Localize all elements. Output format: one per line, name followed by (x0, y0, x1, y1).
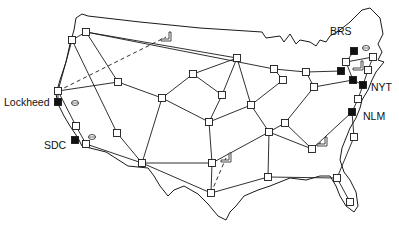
switch-node-denver (159, 95, 166, 102)
disk-icon (89, 135, 96, 140)
switch-node-miami (347, 199, 354, 206)
switch-node-philly (355, 96, 362, 103)
host-node-brs_host (351, 48, 358, 55)
network-link (209, 105, 251, 122)
switch-node-lasvegas (114, 130, 121, 137)
network-link (58, 40, 72, 91)
switch-node-memphis (266, 129, 273, 136)
network-link (72, 40, 117, 133)
host-node-nyt_host (360, 82, 367, 89)
switch-node-kc (206, 119, 213, 126)
host-node-ny_host (350, 77, 357, 84)
label-brs: BRS (330, 26, 352, 37)
network-link (209, 122, 212, 163)
switch-node-dallas (209, 160, 216, 167)
terminal-icon (317, 137, 327, 146)
host-node-sdc (72, 137, 79, 144)
network-diagram: BRSNYTNLMLockheedSDC (0, 0, 399, 230)
network-link (346, 57, 373, 62)
switch-node-nplatte (190, 71, 197, 78)
network-link (274, 69, 306, 72)
network-link (118, 82, 162, 98)
switch-node-dc (351, 134, 358, 141)
switch-node-pittsburgh (311, 84, 318, 91)
label-lockheed: Lockheed (4, 97, 50, 108)
network-link (268, 177, 337, 178)
network-link (86, 32, 237, 58)
switch-node-sf (55, 88, 62, 95)
switch-node-neworleans (265, 174, 272, 181)
us-outline-icon (56, 8, 384, 220)
label-sdc: SDC (44, 140, 66, 151)
switch-node-stlouis (248, 102, 255, 109)
terminal-icon (353, 61, 363, 70)
network-link (211, 163, 212, 193)
switch-node-chicago (271, 66, 278, 73)
switch-node-columbus (280, 77, 287, 84)
network-link (212, 132, 269, 163)
host-node-nlm_host (349, 109, 356, 116)
label-nlm: NLM (363, 111, 385, 122)
network-link (312, 112, 352, 149)
disk-icon (363, 46, 370, 51)
host-node-cleveland_host (338, 68, 345, 75)
network-link (86, 32, 274, 69)
network-link (222, 58, 237, 95)
network-link (268, 132, 269, 177)
host-node-lockheed (55, 99, 62, 106)
label-nyt: NYT (371, 82, 392, 93)
network-link (306, 71, 341, 72)
switch-node-minneapolis (234, 55, 241, 62)
network-link (285, 87, 314, 123)
network-link (142, 98, 162, 163)
switch-node-saltlake (115, 79, 122, 86)
switch-node-phoenix (139, 160, 146, 167)
network-link (162, 98, 209, 122)
network-link (269, 132, 312, 149)
network-link (237, 58, 251, 105)
switch-node-nashville (282, 120, 289, 127)
switch-node-jacksonville (334, 175, 341, 182)
network-link (314, 80, 353, 87)
switch-node-sd (83, 141, 90, 148)
network-link (193, 58, 237, 74)
network-link (193, 74, 222, 95)
switch-node-houston (208, 190, 215, 197)
network-link (162, 74, 193, 98)
network-link (285, 123, 312, 149)
network-link (251, 80, 283, 105)
switch-node-detroit (303, 69, 310, 76)
terminal-icon (161, 32, 171, 41)
network-link (251, 105, 269, 132)
switch-node-portland (69, 37, 76, 44)
network-link (337, 137, 354, 178)
switch-node-omaha (219, 92, 226, 99)
switch-node-la (73, 123, 80, 130)
disk-icon (72, 101, 79, 106)
switch-node-seattle (83, 29, 90, 36)
network-link (211, 177, 268, 193)
switch-node-hartford (365, 67, 372, 74)
switch-node-atlanta (309, 146, 316, 153)
switch-node-boston (370, 54, 377, 61)
switch-node-albany (343, 59, 350, 66)
